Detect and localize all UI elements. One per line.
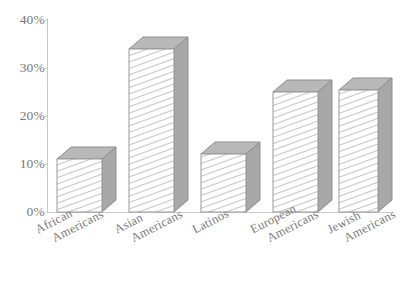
bar-european-americans	[273, 80, 332, 212]
bar-chart: 40% 30% 20% 10% 0%	[0, 0, 405, 287]
bar-jewish-americans	[339, 78, 392, 212]
bar-asian-americans	[129, 37, 188, 212]
bar-latinos	[201, 142, 260, 212]
